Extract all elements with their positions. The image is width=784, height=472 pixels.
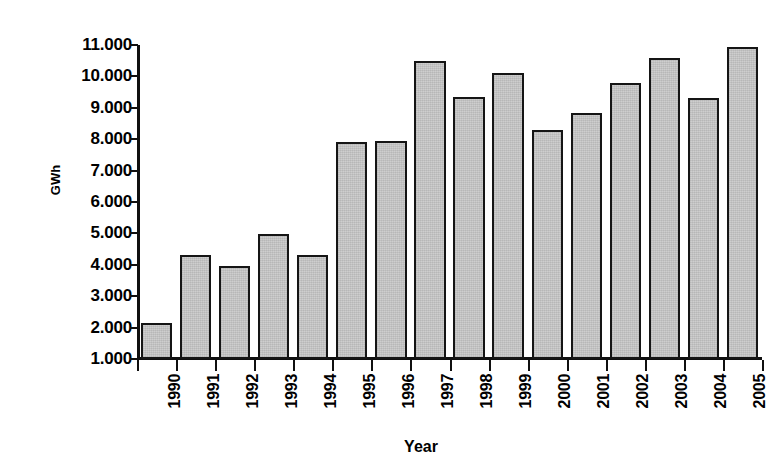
x-axis-tick-label: 1998 [478,374,496,432]
x-axis-tick-label: 2001 [595,374,613,432]
bar-chart: GWh 11.00010.0009.0008.0007.0006.0005.00… [0,0,784,472]
x-axis-title: Year [0,438,784,456]
x-axis-tick-label: 2000 [556,374,574,432]
y-axis-tick-mark [130,264,138,266]
x-axis-tick-mark [176,360,178,371]
x-axis-tick-mark [684,360,686,371]
x-axis-tick-mark [528,360,530,371]
y-axis-tick-mark [130,107,138,109]
x-axis-tick-mark [293,360,295,371]
plot-area [139,30,762,359]
bar [219,266,250,359]
bar [649,58,680,359]
bar [688,98,719,359]
x-axis-tick-label: 1991 [205,374,223,432]
y-axis-tick-label: 9.000 [52,98,132,118]
y-axis-tick-mark [130,75,138,77]
bar [258,234,289,359]
bar [453,97,484,359]
bar [141,323,172,359]
x-axis-tick-mark [489,360,491,371]
y-axis-tick-mark [130,327,138,329]
x-axis-tick-label: 1993 [283,374,301,432]
bar [532,130,563,359]
x-axis-tick-label: 1994 [322,374,340,432]
y-axis-tick-label: 2.000 [52,318,132,338]
y-axis-tick-mark [130,170,138,172]
y-axis-tick-label: 3.000 [52,286,132,306]
x-axis-tick-mark [410,360,412,371]
y-axis-tick-mark [130,138,138,140]
x-axis-tick-mark [215,360,217,371]
x-axis-tick-label: 2004 [712,374,730,432]
x-axis-tick-mark [762,360,764,371]
bar [336,142,367,359]
x-axis-tick-mark [645,360,647,371]
y-axis-tick-label: 1.000 [52,349,132,369]
x-axis-tick-label: 2003 [673,374,691,432]
y-axis-tick-mark [130,232,138,234]
bar [180,255,211,359]
y-axis-tick-labels: 11.00010.0009.0008.0007.0006.0005.0004.0… [52,30,132,370]
x-axis-tick-mark [567,360,569,371]
y-axis-tick-label: 4.000 [52,255,132,275]
x-axis-tick-mark [450,360,452,371]
bar [414,61,445,359]
x-axis-tick-label: 1999 [517,374,535,432]
bar [492,73,523,359]
x-axis-tick-label: 1995 [361,374,379,432]
bar [297,255,328,359]
y-axis-tick-label: 5.000 [52,223,132,243]
y-axis-tick-label: 11.000 [52,35,132,55]
x-axis-tick-mark [137,360,139,371]
y-axis-tick-label: 6.000 [52,192,132,212]
y-axis-tick-label: 8.000 [52,129,132,149]
y-axis-tick-mark [130,295,138,297]
bar [375,141,406,359]
x-axis-tick-label: 1996 [400,374,418,432]
y-axis-tick-mark [130,44,138,46]
x-axis-tick-mark [332,360,334,371]
y-axis-tick-mark [130,201,138,203]
y-axis-tick-label: 7.000 [52,161,132,181]
x-axis-tick-mark [606,360,608,371]
x-axis-tick-mark [254,360,256,371]
y-axis-tick-label: 10.000 [52,66,132,86]
x-axis-tick-mark [723,360,725,371]
x-axis-tick-label: 2002 [634,374,652,432]
x-axis-tick-label: 1992 [244,374,262,432]
x-axis-tick-mark [371,360,373,371]
bar [571,113,602,359]
bar [610,83,641,359]
x-axis-tick-label: 1990 [166,374,184,432]
x-axis-tick-label: 1997 [439,374,457,432]
x-axis-tick-label: 2005 [751,374,769,432]
bar [727,47,758,359]
